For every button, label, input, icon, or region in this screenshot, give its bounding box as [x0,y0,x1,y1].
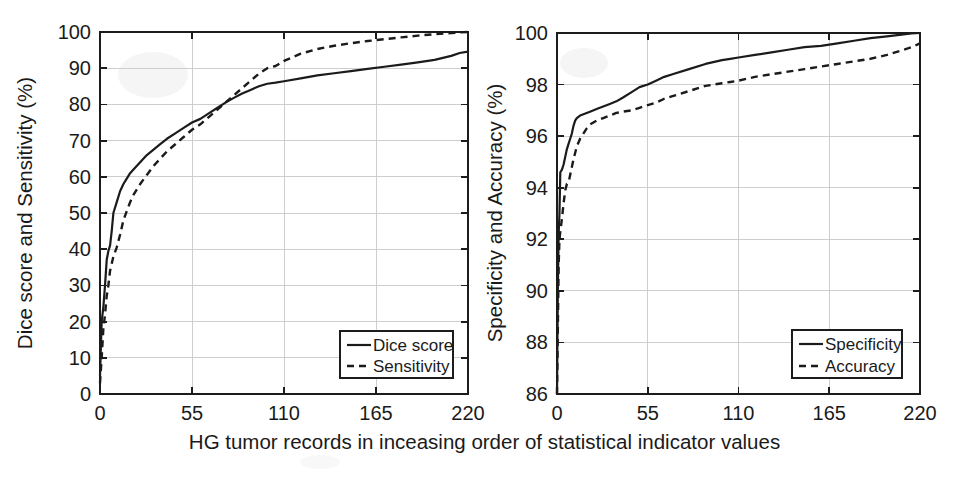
legend-label-specificity[interactable]: Specificity [825,335,902,354]
legend-label-dice-score[interactable]: Dice score [373,336,453,355]
x-tick-label: 0 [551,402,562,424]
figure-container: 0102030405060708090100 055110165220 Dice… [0,0,969,477]
x-tick-label: 55 [637,402,659,424]
x-axis-title: HG tumor records in inceasing order of s… [0,430,969,454]
y-tick-label: 70 [69,130,91,152]
x-tick-label: 0 [94,402,105,424]
right-y-tick-labels: 86889092949698100 [515,22,548,405]
legend-label-accuracy[interactable]: Accuracy [825,357,895,376]
x-tick-label: 220 [903,402,936,424]
right-x-tick-labels: 055110165220 [551,402,936,424]
y-tick-label: 100 [515,22,548,44]
y-tick-label: 100 [58,21,91,43]
x-tick-label: 110 [723,402,755,424]
y-tick-label: 92 [526,228,548,250]
y-tick-label: 30 [69,274,91,296]
right-legend[interactable]: Specificity Accuracy [792,330,902,378]
y-tick-label: 60 [69,166,91,188]
left-y-tick-labels: 0102030405060708090100 [58,21,91,405]
y-tick-label: 88 [526,331,548,353]
x-tick-label: 165 [813,402,846,424]
right-plot-svg: 86889092949698100 055110165220 Specifici… [480,0,969,430]
y-tick-label: 96 [526,125,548,147]
legend-label-sensitivity[interactable]: Sensitivity [373,357,450,376]
x-tick-label: 110 [268,402,300,424]
y-tick-label: 94 [526,177,548,199]
left-legend[interactable]: Dice score Sensitivity [340,331,453,378]
y-tick-label: 10 [69,347,91,369]
x-tick-label: 165 [359,402,392,424]
y-tick-label: 86 [526,383,548,405]
chart-panel-right: 86889092949698100 055110165220 Specifici… [480,0,969,477]
x-tick-label: 55 [181,402,203,424]
y-tick-label: 50 [69,202,91,224]
y-tick-label: 0 [80,383,91,405]
chart-panel-left: 0102030405060708090100 055110165220 Dice… [0,0,490,477]
y-tick-label: 20 [69,311,91,333]
left-x-tick-labels: 055110165220 [94,402,484,424]
y-tick-label: 80 [69,93,91,115]
y-tick-label: 40 [69,238,91,260]
right-y-axis-title: Specificity and Accuracy (%) [483,84,506,343]
y-tick-label: 98 [526,74,548,96]
left-y-axis-title: Dice score and Sensitivity (%) [13,77,36,349]
y-tick-label: 90 [69,57,91,79]
left-plot-svg: 0102030405060708090100 055110165220 Dice… [0,0,490,430]
y-tick-label: 90 [526,280,548,302]
